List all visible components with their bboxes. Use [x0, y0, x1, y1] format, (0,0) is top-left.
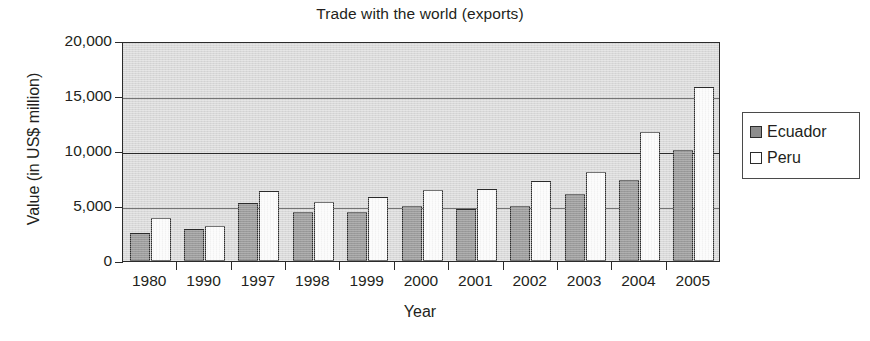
bar-peru-2003: [586, 172, 606, 261]
x-tick-mark-4: [394, 262, 395, 270]
x-tick-mark-5: [448, 262, 449, 270]
chart-title: Trade with the world (exports): [120, 5, 720, 23]
x-axis-title: Year: [120, 303, 720, 321]
y-tick-label-20000: 20,000: [0, 32, 112, 50]
x-tick-label-2001: 2001: [448, 272, 502, 290]
bar-ecuador-2004: [619, 180, 639, 261]
y-tick-label-5000: 5,000: [0, 197, 112, 215]
bar-ecuador-2005: [673, 150, 693, 261]
x-tick-mark-1: [231, 262, 232, 270]
bar-peru-1997: [259, 191, 279, 261]
x-tick-mark-3: [339, 262, 340, 270]
bar-ecuador-2003: [565, 194, 585, 261]
bar-ecuador-1980: [130, 233, 150, 261]
x-tick-mark-9: [666, 262, 667, 270]
bar-ecuador-2001: [456, 209, 476, 261]
peru-swatch-icon: [750, 152, 762, 164]
ecuador-swatch-icon: [750, 126, 762, 138]
x-tick-label-1999: 1999: [339, 272, 393, 290]
bar-peru-1990: [205, 226, 225, 261]
y-tick-mark-10000: [115, 152, 123, 153]
x-tick-label-1980: 1980: [122, 272, 176, 290]
y-tick-label-15000: 15,000: [0, 87, 112, 105]
bar-ecuador-1998: [293, 212, 313, 261]
x-tick-mark-2: [285, 262, 286, 270]
bar-ecuador-2000: [402, 206, 422, 261]
y-tick-mark-0: [115, 262, 123, 263]
x-tick-label-2005: 2005: [666, 272, 720, 290]
y-tick-label-0: 0: [0, 252, 112, 270]
x-tick-label-2002: 2002: [503, 272, 557, 290]
bar-peru-1980: [151, 218, 171, 261]
y-tick-mark-15000: [115, 97, 123, 98]
legend: Ecuador Peru: [742, 112, 860, 179]
x-tick-label-1998: 1998: [285, 272, 339, 290]
gridline-15000: [123, 98, 719, 99]
x-tick-mark-8: [611, 262, 612, 270]
bar-peru-1999: [368, 197, 388, 261]
y-tick-mark-20000: [115, 42, 123, 43]
x-tick-label-2000: 2000: [394, 272, 448, 290]
x-tick-label-2004: 2004: [611, 272, 665, 290]
y-tick-label-10000: 10,000: [0, 142, 112, 160]
bar-ecuador-2002: [510, 206, 530, 261]
bar-ecuador-1999: [347, 212, 367, 261]
bar-ecuador-1990: [184, 229, 204, 261]
gridline-10000: [123, 153, 719, 154]
bar-peru-2004: [640, 132, 660, 261]
x-tick-label-2003: 2003: [557, 272, 611, 290]
bar-ecuador-1997: [238, 203, 258, 261]
x-tick-mark-7: [557, 262, 558, 270]
legend-label-peru: Peru: [767, 149, 801, 167]
bar-peru-2005: [694, 87, 714, 261]
x-tick-mark-0: [176, 262, 177, 270]
legend-item-peru[interactable]: Peru: [750, 145, 853, 171]
bar-peru-2000: [423, 190, 443, 261]
y-tick-mark-5000: [115, 207, 123, 208]
bar-peru-1998: [314, 202, 334, 261]
bar-chart-figure: Trade with the world (exports) Value (in…: [0, 0, 870, 341]
x-tick-label-1990: 1990: [176, 272, 230, 290]
bar-peru-2001: [477, 189, 497, 261]
x-tick-label-1997: 1997: [231, 272, 285, 290]
x-tick-mark-6: [503, 262, 504, 270]
legend-label-ecuador: Ecuador: [767, 123, 827, 141]
bar-peru-2002: [531, 181, 551, 261]
legend-item-ecuador[interactable]: Ecuador: [750, 119, 853, 145]
plot-area: [122, 42, 720, 262]
